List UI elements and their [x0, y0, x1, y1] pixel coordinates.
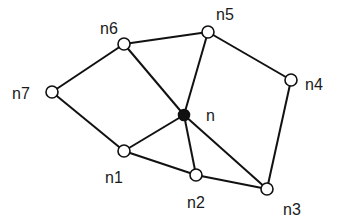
- node-n4: [285, 74, 297, 86]
- edge-n-n5: [184, 32, 208, 115]
- edge-n-n6: [124, 44, 184, 115]
- network-graph: nn1n2n3n4n5n6n7: [0, 0, 337, 221]
- node-n7: [46, 86, 58, 98]
- node-n1: [118, 145, 130, 157]
- nodes-group: [46, 26, 297, 195]
- node-n2: [190, 169, 202, 181]
- node-n6: [118, 38, 130, 50]
- node-label-n7: n7: [12, 85, 30, 102]
- edge-n1-n7: [52, 92, 124, 151]
- edge-n6-n5: [124, 32, 208, 44]
- node-label-n: n: [206, 107, 215, 124]
- edge-n-n1: [124, 115, 184, 151]
- node-n: [179, 110, 190, 121]
- node-label-n3: n3: [283, 201, 301, 218]
- edge-n3-n2: [196, 175, 267, 189]
- node-label-n6: n6: [100, 20, 118, 37]
- edges-group: [52, 32, 291, 189]
- node-n3: [261, 183, 273, 195]
- node-label-n4: n4: [305, 76, 323, 93]
- node-label-n1: n1: [105, 169, 123, 186]
- edge-n7-n6: [52, 44, 124, 92]
- node-n5: [202, 26, 214, 38]
- node-label-n2: n2: [187, 194, 205, 211]
- edge-n5-n4: [208, 32, 291, 80]
- edge-n2-n1: [124, 151, 196, 175]
- edge-n4-n3: [267, 80, 291, 189]
- node-label-n5: n5: [216, 6, 234, 23]
